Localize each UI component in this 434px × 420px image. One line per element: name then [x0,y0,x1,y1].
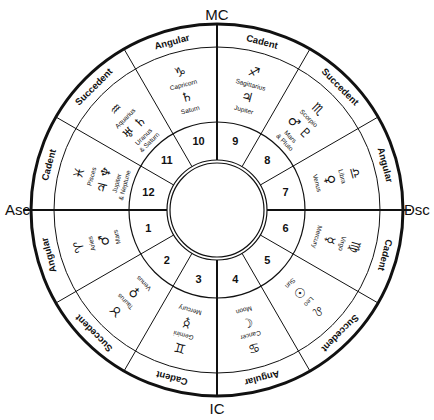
house-10-content: ♑Capricorn♄Saturn [169,63,201,115]
house-5-content: ♌Leo☉Sun [284,277,328,321]
axis-label-ic: IC [210,400,225,417]
sign-glyph-icon: ♈ [70,239,88,254]
planet-glyph-icon: ♃ [240,88,255,106]
axis-label-dsc: Dsc [404,201,430,218]
axis-label-asc: Asc [5,201,31,218]
planet-glyph-icon: ♀ [322,173,339,186]
house-4-content: ♋Cancer☾Moon [235,305,262,357]
house-number-8: 8 [264,154,270,166]
planet-glyph-icon: ☿ [322,234,339,246]
sign-glyph-icon: ♐ [246,63,261,81]
planet-name: Jupiter [233,104,255,117]
house-number-9: 9 [232,135,238,147]
axis-label-mc: MC [205,6,228,23]
house-number-1: 1 [145,222,151,234]
house-8-content: ♏Scorpio♂ ♇Mars& Pluto [275,99,328,152]
planet-name: Mercury [177,303,202,317]
center-ring-inner [170,163,264,257]
house-11-content: ♒Aquarius♅ ♄Uranus& Saturn [106,99,160,153]
astrology-wheel: AngularSuccedentCadentAngularSuccedentCa… [0,0,434,420]
band-label-house-9: Cadent [245,32,280,51]
planet-name: Mars [111,228,122,244]
sign-glyph-icon: ♎ [346,165,364,180]
sign-name: Gemini [173,330,195,342]
sign-glyph-icon: ♑ [172,63,187,81]
house-6-content: ♍Virgo☿Mercury [310,224,364,255]
house-9-content: ♐Sagittarius♃Jupiter [233,63,267,117]
sign-glyph-icon: ♊ [172,339,187,357]
sign-glyph-icon: ♍ [346,239,364,254]
planet-glyph-icon: ♄ [179,88,194,106]
band-label-house-12: Cadent [39,147,58,182]
planet-name: Mercury [310,224,324,249]
planet-name: Moon [235,305,253,316]
band-label-house-3: Cadent [154,369,189,388]
band-label-house-6: Cadent [376,238,395,273]
house-1-content: ♈Aries♂Mars [70,228,122,254]
planet-glyph-icon: ☿ [181,315,193,332]
house-12-content: ♓Pisces♃ ♆Jupiter& Neptune [70,165,133,202]
house-number-6: 6 [283,222,289,234]
house-number-11: 11 [161,154,173,166]
house-number-3: 3 [196,273,202,285]
sign-glyph-icon: ♓ [70,165,88,180]
house-number-12: 12 [142,186,154,198]
house-number-4: 4 [232,273,239,285]
planet-glyph-icon: ☾ [240,314,255,332]
house-number-5: 5 [264,254,270,266]
house-number-10: 10 [192,135,204,147]
house-3-content: ♊Gemini☿Mercury [172,303,202,357]
house-number-7: 7 [283,186,289,198]
sign-glyph-icon: ♋ [246,339,261,357]
planet-glyph-icon: ♂ [95,233,113,248]
house-2-content: ♉Taurus♀Venus [106,274,152,320]
house-number-2: 2 [164,254,170,266]
house-7-content: ♎Libra♀Venus [312,165,364,193]
